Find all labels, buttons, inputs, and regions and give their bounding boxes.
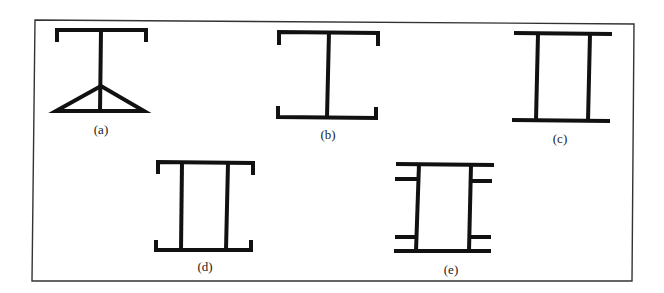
section-c-right-web (588, 34, 590, 121)
section-a: (a) (56, 30, 146, 137)
section-c-label: (c) (553, 131, 567, 146)
section-c: (c) (512, 33, 612, 146)
figure-frame (32, 20, 634, 281)
section-c-bottom-flange (512, 120, 610, 121)
section-c-top-flange (514, 33, 612, 34)
section-b-web (327, 32, 329, 117)
section-a-web (100, 30, 101, 112)
section-c-left-web (536, 34, 538, 120)
section-d: (d) (156, 162, 253, 274)
section-e: (e) (394, 164, 494, 277)
section-d-left-web (181, 162, 182, 250)
diagram-canvas: (a) (b) (c) (d) (e) (0, 0, 664, 293)
section-e-label: (e) (444, 262, 458, 277)
section-d-top-flange (158, 162, 253, 175)
section-d-label: (d) (197, 259, 212, 274)
section-d-right-web (226, 163, 228, 250)
section-d-bottom-flange (156, 240, 251, 250)
section-a-label: (a) (94, 122, 108, 137)
section-b: (b) (278, 32, 378, 142)
section-e-top-flange (396, 164, 494, 165)
section-b-label: (b) (320, 127, 335, 142)
